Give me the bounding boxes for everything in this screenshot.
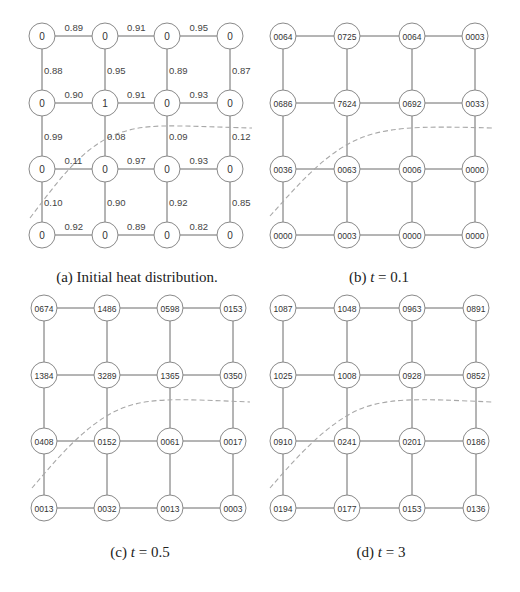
- node-value: 0241: [338, 437, 357, 447]
- graph-node: 0: [154, 156, 180, 182]
- node-value: 0725: [338, 32, 357, 42]
- edge-weight-label: 0.11: [65, 155, 83, 166]
- graph-node: 0153: [399, 495, 425, 521]
- node-value: 0003: [338, 231, 357, 241]
- node-value: 0: [39, 164, 45, 175]
- node-value: 0852: [467, 371, 486, 381]
- node-value: 0152: [98, 437, 117, 447]
- node-value: 0000: [403, 231, 422, 241]
- node-value: 1384: [35, 371, 54, 381]
- edge-weight-label: 0.12: [232, 131, 251, 142]
- node-value: 1008: [338, 371, 357, 381]
- node-value: 0153: [224, 304, 243, 314]
- node-value: 0000: [274, 231, 293, 241]
- node-value: 0: [227, 31, 233, 42]
- graph-node: 0153: [220, 295, 246, 321]
- caption-c: (c) t = 0.5: [110, 544, 169, 561]
- graph-node: 0910: [270, 428, 296, 454]
- node-value: 1365: [161, 371, 180, 381]
- graph-node: 0194: [270, 495, 296, 521]
- node-value: 0674: [35, 304, 54, 314]
- graph-node: 0036: [270, 156, 296, 182]
- caption-b-value: = 0.1: [374, 269, 409, 285]
- graph-node: 0003: [462, 23, 488, 49]
- edge-weight-label: 0.10: [44, 197, 63, 208]
- node-value: 0061: [161, 437, 180, 447]
- edge-weight-label: 0.99: [44, 131, 63, 142]
- graph-node: 0: [29, 222, 55, 248]
- node-value: 0: [164, 164, 170, 175]
- panel-a-initial-heat-distribution: 0.890.910.950.900.910.930.110.970.930.92…: [29, 22, 252, 248]
- node-value: 0: [227, 98, 233, 109]
- edge-weight-label: 0.09: [169, 131, 188, 142]
- graph-node: 0: [217, 90, 243, 116]
- dashed-boundary-curve: [270, 127, 492, 216]
- graph-node: 7624: [334, 90, 360, 116]
- graph-node: 0891: [463, 295, 489, 321]
- edge-weight-label: 0.85: [232, 197, 251, 208]
- edge-weight-label: 0.95: [190, 22, 209, 33]
- graph-node: 0: [29, 23, 55, 49]
- graph-node: 0000: [399, 222, 425, 248]
- edge-weight-label: 0.89: [169, 65, 188, 76]
- graph-node: 0: [92, 222, 118, 248]
- node-value: 0: [227, 230, 233, 241]
- node-value: 0: [102, 164, 108, 175]
- node-value: 0201: [403, 437, 422, 447]
- node-value: 0006: [403, 165, 422, 175]
- graph-node: 0064: [270, 23, 296, 49]
- graph-node: 0000: [462, 156, 488, 182]
- graph-node: 0686: [270, 90, 296, 116]
- graph-node: 0: [154, 222, 180, 248]
- graph-node: 0000: [462, 222, 488, 248]
- graph-node: 0: [217, 23, 243, 49]
- edge-weight-label: 0.89: [127, 221, 146, 232]
- edge-weight-label: 0.95: [107, 65, 126, 76]
- caption-b-prefix: (b): [349, 269, 370, 286]
- node-value: 0064: [274, 32, 293, 42]
- graph-node: 0928: [399, 362, 425, 388]
- edge-weight-label: 0.89: [65, 22, 84, 33]
- node-value: 0013: [161, 504, 180, 514]
- caption-d: (d) t = 3: [357, 544, 406, 561]
- edge-weight-label: 0.93: [190, 89, 209, 100]
- edge-weight-label: 0.91: [127, 89, 146, 100]
- graph-node: 1486: [94, 295, 120, 321]
- graph-node: 1087: [270, 295, 296, 321]
- node-value: 0032: [98, 504, 117, 514]
- caption-c-prefix: (c): [110, 544, 130, 561]
- graph-node: 0241: [334, 428, 360, 454]
- node-value: 1025: [274, 371, 293, 381]
- graph-node: 0963: [399, 295, 425, 321]
- edge-weight-label: 0.08: [107, 131, 126, 142]
- graph-node: 0177: [334, 495, 360, 521]
- node-value: 0: [39, 31, 45, 42]
- node-value: 0000: [466, 165, 485, 175]
- node-value: 0003: [466, 32, 485, 42]
- graph-node: 1025: [270, 362, 296, 388]
- node-value: 0910: [274, 437, 293, 447]
- graph-node: 0017: [220, 428, 246, 454]
- node-value: 0350: [224, 371, 243, 381]
- graph-node: 1384: [31, 362, 57, 388]
- node-value: 0692: [403, 99, 422, 109]
- graph-node: 0186: [463, 428, 489, 454]
- graph-node: 0: [217, 222, 243, 248]
- panel-b-t-0-1: 0064072500640003068676240692003300360063…: [270, 23, 492, 248]
- graph-node: 0598: [157, 295, 183, 321]
- node-value: 0013: [35, 504, 54, 514]
- graph-node: 0006: [399, 156, 425, 182]
- graph-node: 0032: [94, 495, 120, 521]
- graph-node: 0: [92, 156, 118, 182]
- node-value: 0153: [403, 504, 422, 514]
- graph-node: 0692: [399, 90, 425, 116]
- node-value: 0: [102, 31, 108, 42]
- graph-node: 1048: [334, 295, 360, 321]
- node-value: 0036: [274, 165, 293, 175]
- graph-node: 0852: [463, 362, 489, 388]
- graph-node: 0136: [463, 495, 489, 521]
- edge-weight-label: 0.91: [127, 22, 146, 33]
- graph-node: 0: [154, 23, 180, 49]
- edge-weight-label: 0.87: [232, 65, 251, 76]
- node-value: 0136: [467, 504, 486, 514]
